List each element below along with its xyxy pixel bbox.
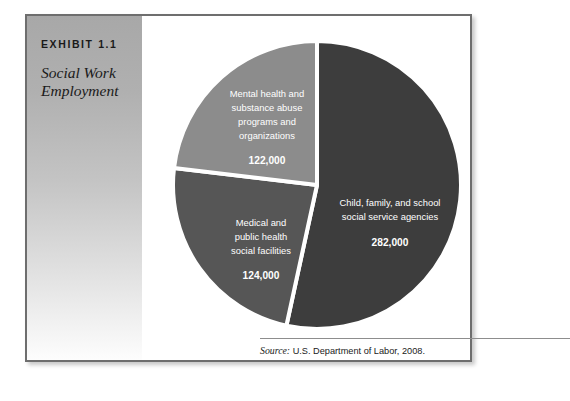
pie-label-line: programs and <box>238 116 296 127</box>
source-divider <box>260 338 570 339</box>
exhibit-frame: EXHIBIT 1.1 Social Work Employment Child… <box>25 14 472 362</box>
exhibit-title-line-2: Employment <box>41 82 118 99</box>
pie-label-line: public health <box>235 231 288 242</box>
source-label: Source: <box>260 345 290 356</box>
pie-label-line: Child, family, and school <box>340 197 441 208</box>
pie-value-label: 282,000 <box>372 237 409 248</box>
source-note: Source: U.S. Department of Labor, 2008. <box>260 345 425 356</box>
pie-label-line: Mental health and <box>230 88 305 99</box>
pie-label-line: substance abuse <box>232 102 303 113</box>
exhibit-number-label: EXHIBIT 1.1 <box>41 38 118 50</box>
pie-label-line: social facilities <box>231 245 291 256</box>
chart-area: Child, family, and school social service… <box>142 16 470 360</box>
pie-label-line: social service agencies <box>342 211 439 222</box>
exhibit-title-line-1: Social Work <box>41 64 116 81</box>
pie-chart-svg: Child, family, and school social service… <box>142 34 472 330</box>
pie-value-label: 124,000 <box>243 270 280 281</box>
source-text: U.S. Department of Labor, 2008. <box>293 346 425 356</box>
pie-label-line: organizations <box>239 130 295 141</box>
pie-chart: Child, family, and school social service… <box>142 34 472 330</box>
exhibit-caption-panel: EXHIBIT 1.1 Social Work Employment <box>27 16 142 360</box>
exhibit-title: Social Work Employment <box>41 64 137 100</box>
pie-label-line: Medical and <box>236 217 287 228</box>
pie-value-label: 122,000 <box>249 155 286 166</box>
pie-slice-mental-health-substance-abuse[interactable] <box>174 41 317 185</box>
